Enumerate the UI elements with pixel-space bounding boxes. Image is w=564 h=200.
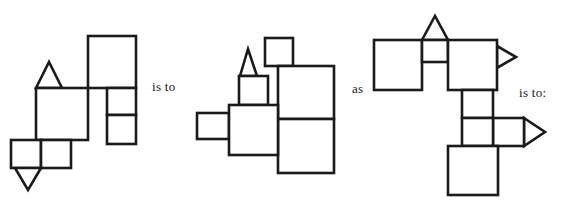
figure-b-square-large-center <box>229 105 278 155</box>
figure-a-square-large-upper-right <box>88 36 136 88</box>
figure-c-square-small-mid-upper <box>462 90 493 118</box>
figure-c-square-large-left <box>374 40 422 90</box>
figure-c-triangle-up-small <box>422 16 448 40</box>
figure-a-square-small-right-top <box>107 88 136 115</box>
figure-c-square-large-bottom <box>448 146 498 195</box>
figure-a-square-large-center <box>36 88 88 140</box>
connector-label-is-to-1: is to <box>152 79 176 95</box>
figure-c-triangle-right-lower <box>524 118 545 146</box>
connector-label-is-to-2: is to: <box>519 85 546 101</box>
figure-a <box>11 36 136 190</box>
figure-c-square-small-under-triangle <box>422 40 448 62</box>
figure-a-square-small-lower-right <box>41 140 71 168</box>
figure-b-square-large-right-lower <box>278 119 334 173</box>
figure-b-square-large-right-upper <box>278 66 334 119</box>
connector-label-as: as <box>352 81 363 97</box>
figure-c-triangle-right-top <box>497 46 516 68</box>
figure-c-square-small-mid-right <box>493 118 524 146</box>
figure-b-rect-small-left-tab <box>197 113 229 139</box>
figures-canvas <box>0 0 564 200</box>
figure-c-square-large-right <box>448 40 497 90</box>
figure-b-square-small-under-triangle <box>239 76 268 105</box>
figure-a-square-small-lower-left <box>11 140 41 168</box>
figure-a-triangle-up-small <box>36 62 62 88</box>
figure-c <box>374 16 545 195</box>
figure-b-triangle-up-small <box>240 49 257 76</box>
figure-a-square-small-right-bottom <box>107 115 136 144</box>
figure-b <box>197 38 334 173</box>
figure-b-square-small-top-right <box>265 38 293 66</box>
figure-a-triangle-down-small <box>15 168 41 190</box>
figure-c-square-small-mid-lower <box>462 118 493 146</box>
analogy-puzzle: is to as is to: <box>0 0 564 200</box>
